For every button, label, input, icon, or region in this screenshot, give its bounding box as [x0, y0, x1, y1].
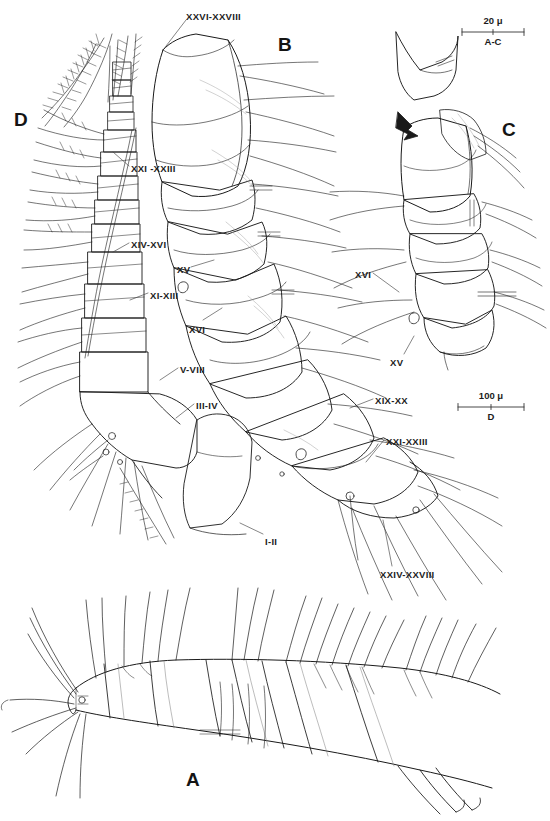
panel-letter-c: C: [502, 120, 516, 139]
scale-bar-value: 20 μ: [452, 16, 534, 26]
illustration-plate: XXVI-XXVIIIXXI -XXIIIXIV-XVIXVXI-XIIIXVI…: [0, 0, 550, 821]
plate-artwork: [0, 0, 550, 821]
segment-label: XVI: [189, 325, 205, 335]
segment-label: XI-XIII: [150, 291, 179, 301]
segment-label: V-VIII: [180, 365, 205, 375]
segment-label: XVI: [355, 270, 371, 280]
segment-label: XXI-XXIII: [386, 437, 428, 447]
segment-label: XIX-XX: [375, 396, 408, 406]
scale-bar-value: 100 μ: [448, 391, 534, 401]
segment-label: XV: [390, 358, 403, 368]
panel-letter-b: B: [278, 35, 292, 54]
scale-bar-applies-to: A-C: [452, 37, 534, 47]
segment-label: XXI -XXIII: [131, 164, 176, 174]
segment-label: XXVI-XXVIII: [186, 12, 241, 22]
segment-label: XV: [177, 265, 190, 275]
segment-label: III-IV: [196, 401, 218, 411]
panel-letter-a: A: [186, 770, 200, 789]
segment-label: XXIV-XXVIII: [380, 570, 435, 580]
segment-label: I-II: [265, 537, 277, 547]
scale-bar-applies-to: D: [448, 412, 534, 422]
segment-label: XIV-XVI: [131, 240, 166, 250]
panel-letter-d: D: [14, 110, 28, 129]
